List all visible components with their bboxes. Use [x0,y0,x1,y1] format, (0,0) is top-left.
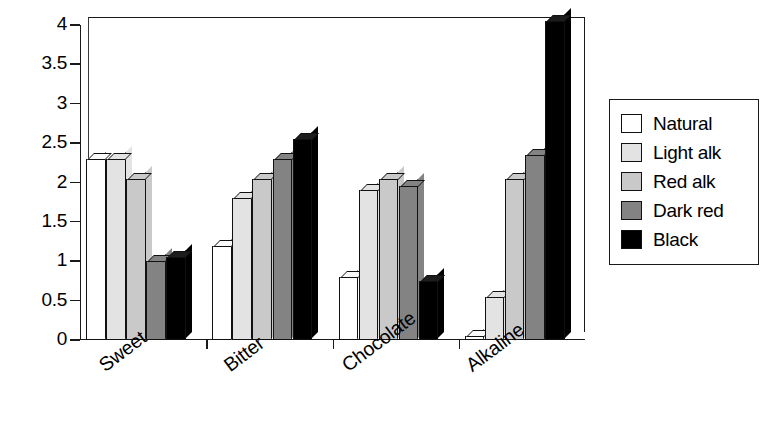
legend-label: Dark red [653,201,723,220]
legend-label: Red alk [653,172,715,191]
legend-swatch [621,201,642,220]
x-axis-label-alkaline: Alkaline [462,319,527,375]
legend-item: Dark red [621,196,758,225]
legend-label: Light alk [653,143,721,162]
bar-chart: 00.511.522.533.54 SweetBitterChocolateAl… [0,0,775,435]
legend-label: Black [653,230,698,249]
legend-swatch [621,114,642,133]
legend-item: Natural [621,109,758,138]
x-axis-label-bitter: Bitter [220,332,267,375]
legend-item: Light alk [621,138,758,167]
x-axis-label-chocolate: Chocolate [338,307,419,375]
legend-swatch [621,143,642,162]
x-axis-label-sweet: Sweet [95,327,150,375]
legend-swatch [621,230,642,249]
legend-item: Red alk [621,167,758,196]
legend: NaturalLight alkRed alkDark redBlack [609,99,759,265]
legend-item: Black [621,225,758,254]
legend-swatch [621,172,642,191]
legend-label: Natural [653,114,712,133]
